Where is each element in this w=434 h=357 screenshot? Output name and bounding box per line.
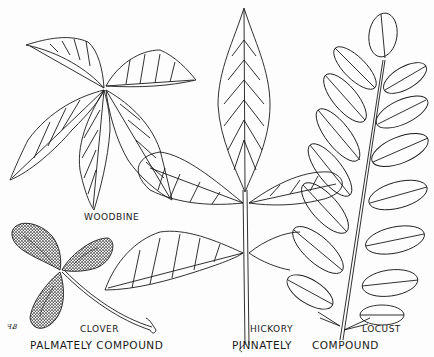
- woodbine-leaf: [10, 38, 196, 210]
- leaf-drawings: [0, 0, 434, 357]
- label-woodbine: WOODBINE: [84, 212, 139, 222]
- artist-signature: ꟻᏰ: [7, 323, 18, 331]
- label-clover: CLOVER: [80, 324, 119, 334]
- hickory-leaf: [105, 8, 342, 352]
- label-compound: COMPOUND: [312, 339, 379, 351]
- label-pinnately: PINNATELY: [232, 339, 292, 351]
- botanical-illustration: WOODBINE CLOVER PALMATELY COMPOUND HICKO…: [0, 0, 434, 357]
- label-palmately-compound: PALMATELY COMPOUND: [30, 339, 163, 351]
- label-hickory: HICKORY: [250, 324, 293, 334]
- locust-leaf: [282, 11, 433, 340]
- label-locust: LOCUST: [362, 324, 401, 334]
